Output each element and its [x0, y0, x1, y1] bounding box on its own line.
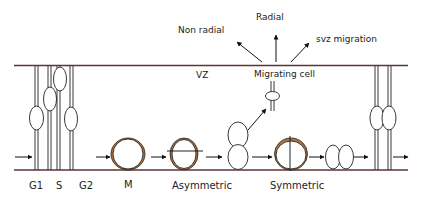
stage-label-g2: G2 — [79, 180, 93, 191]
g2-cell-icon — [65, 107, 78, 131]
svz-migration-label: svz migration — [316, 34, 377, 44]
cell-icon — [382, 106, 396, 130]
migration-route-arrows — [237, 35, 309, 62]
symmetric-division-cell-icon — [275, 136, 308, 171]
migrating-cell-icon — [266, 81, 280, 111]
interkinetic-cells — [30, 66, 78, 170]
non-radial-label: Non radial — [178, 25, 224, 35]
migrating-cell-label: Migrating cell — [254, 69, 315, 79]
stage-label-s: S — [56, 180, 62, 191]
asymmetric-division-cell-icon — [167, 138, 203, 170]
svz-arrow-icon — [291, 43, 309, 62]
stage-label-g1: G1 — [29, 180, 43, 191]
asymmetric-daughter-cells-icon — [228, 122, 248, 170]
mitotic-cell-icon — [111, 138, 145, 170]
stage-label-symmetric: Symmetric — [270, 180, 324, 191]
s-cell-icon-1 — [44, 87, 57, 111]
radial-label: Radial — [256, 12, 284, 22]
s-cell-icon-2 — [54, 67, 67, 91]
g1-cell-icon — [30, 106, 44, 130]
cell-cycle-diagram: Non radial Radial svz migration VZ Migra… — [0, 0, 426, 199]
stage-label-m: M — [124, 179, 133, 190]
arrow-to-migrating-cell — [248, 109, 266, 130]
stage-label-asymmetric: Asymmetric — [172, 180, 232, 191]
vz-label: VZ — [196, 70, 208, 80]
right-elongated-cells — [370, 66, 396, 170]
symmetric-daughter-cells-icon — [326, 145, 354, 169]
non-radial-arrow-icon — [237, 42, 262, 62]
